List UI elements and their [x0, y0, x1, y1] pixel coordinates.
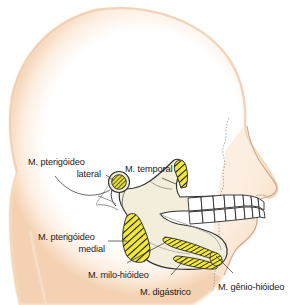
label-genio-hioideo: M. gênio-hióideo	[218, 282, 284, 292]
label-digastrico: M. digástrico	[140, 287, 191, 297]
label-pterigoideo-lateral-line1: M. pterigóideo	[28, 157, 85, 167]
illustration-canvas: M. pterigóideo lateral M. temporal M. pt…	[0, 0, 303, 305]
label-pterigoideo-medial-line1: M. pterigóideo	[38, 232, 95, 242]
label-pterigoideo-lateral-line2: lateral	[77, 169, 101, 179]
label-temporal: M. temporal	[125, 164, 172, 174]
lateral-pterygoid-attachment	[112, 175, 127, 190]
label-pterigoideo-medial-line2: medial	[79, 244, 106, 254]
label-milo-hioideo: M. milo-hióideo	[88, 270, 149, 280]
